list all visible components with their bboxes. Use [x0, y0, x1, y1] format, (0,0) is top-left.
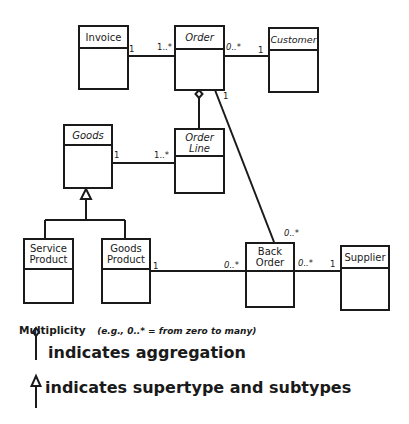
class-name: Customer	[270, 29, 317, 51]
multiplicity-label: 1	[153, 261, 158, 271]
multiplicity-label: 1	[330, 259, 335, 269]
multiplicity-label: 1	[114, 150, 119, 160]
multiplicity-label: 1	[223, 91, 228, 101]
multiplicity-label: 1..*	[154, 150, 169, 160]
legend-generalization-triangle-icon	[32, 376, 41, 386]
multiplicity-label: 0..*	[226, 42, 241, 52]
aggregation-diamond-icon	[196, 90, 203, 98]
legend-title: Multiplicity	[19, 324, 86, 336]
class-goods-product[interactable]: Goods Product	[101, 238, 151, 304]
legend-aggregation: indicates aggregation	[48, 343, 246, 362]
class-name: Order Line	[176, 130, 223, 157]
class-name: Goods Product	[103, 240, 149, 270]
class-name: Supplier	[342, 247, 388, 269]
class-goods[interactable]: Goods	[63, 124, 113, 189]
class-back-order[interactable]: Back Order	[245, 242, 295, 308]
class-name: Invoice	[80, 27, 127, 49]
legend-example: (e.g., 0..* = from zero to many)	[97, 326, 256, 336]
class-order-line[interactable]: Order Line	[174, 128, 225, 194]
class-name: Goods	[65, 126, 111, 146]
legend: Multiplicity (e.g., 0..* = from zero to …	[19, 319, 256, 338]
multiplicity-label: 0..*	[224, 260, 239, 270]
multiplicity-label: 0..*	[298, 258, 313, 268]
class-name: Order	[176, 27, 223, 50]
class-service-product[interactable]: Service Product	[23, 238, 74, 304]
class-invoice[interactable]: Invoice	[78, 25, 129, 90]
class-name: Service Product	[25, 240, 72, 270]
class-order[interactable]: Order	[174, 25, 225, 91]
multiplicity-label: 1	[258, 45, 263, 55]
class-customer[interactable]: Customer	[268, 27, 319, 93]
multiplicity-label: 1	[129, 44, 134, 54]
multiplicity-label: 1..*	[157, 42, 172, 52]
multiplicity-label: 0..*	[284, 228, 299, 238]
legend-generalization: indicates supertype and subtypes	[45, 378, 351, 397]
class-name: Back Order	[247, 244, 293, 272]
generalization-triangle-icon	[81, 189, 91, 199]
class-supplier[interactable]: Supplier	[340, 245, 390, 311]
